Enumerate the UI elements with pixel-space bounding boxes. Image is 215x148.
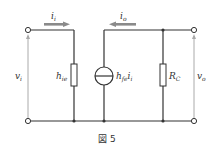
rc-label: RC bbox=[168, 71, 181, 82]
terminal-input-bottom bbox=[25, 118, 30, 123]
source-label: hfeii bbox=[116, 71, 132, 83]
input-current-arrowhead-icon bbox=[63, 22, 70, 28]
input-voltage-arrowhead-icon bbox=[26, 34, 30, 39]
hie-label: hie bbox=[56, 71, 68, 82]
junction-dot-bottom-source bbox=[102, 119, 105, 122]
terminal-output-bottom bbox=[191, 118, 196, 123]
terminal-input-top bbox=[25, 27, 30, 32]
output-voltage-arrowhead-icon bbox=[192, 34, 196, 39]
junction-dot-bottom-rc bbox=[161, 119, 164, 122]
figure-caption: 図 5 bbox=[98, 134, 116, 144]
output-current-arrow bbox=[116, 23, 136, 26]
junction-dot-top-rc bbox=[161, 28, 164, 31]
terminal-output-top bbox=[191, 27, 196, 32]
input-voltage-label: vi bbox=[15, 71, 22, 82]
output-current-label: io bbox=[120, 11, 127, 22]
input-current-arrow bbox=[44, 23, 64, 26]
input-current-label: ii bbox=[51, 11, 56, 22]
junction-dot-bottom-hie bbox=[72, 119, 75, 122]
rc-resistor bbox=[160, 64, 166, 86]
circuit-diagram: ii io vi vo hie hfeii RC 図 5 bbox=[0, 0, 215, 148]
hie-resistor bbox=[71, 64, 77, 86]
output-current-arrowhead-icon bbox=[109, 22, 116, 28]
output-voltage-label: vo bbox=[197, 71, 206, 82]
